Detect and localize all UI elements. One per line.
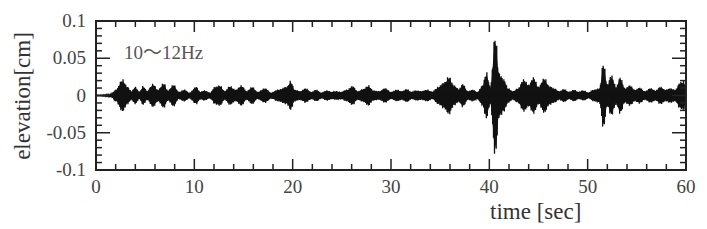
x-tick-label: 0 [91,176,101,197]
y-axis-title: elevation[cm] [10,32,35,160]
x-tick-labels: 0102030405060 [91,176,695,197]
x-tick-label: 40 [480,176,499,197]
waveform-chart: 0.10.050-0.05-0.1 0102030405060 10〜12Hz … [0,0,707,229]
y-tick-label: -0.05 [46,122,86,143]
x-axis-title: time [sec] [490,199,581,224]
x-tick-label: 60 [677,176,696,197]
x-tick-label: 30 [382,176,401,197]
y-tick-label: 0 [77,85,87,106]
x-tick-label: 50 [578,176,597,197]
y-tick-label: 0.1 [62,10,86,31]
y-tick-label: -0.1 [56,159,86,180]
y-tick-label: 0.05 [53,47,86,68]
x-tick-label: 10 [185,176,204,197]
y-tick-labels: 0.10.050-0.05-0.1 [46,10,86,180]
x-tick-label: 20 [283,176,302,197]
frequency-band-annotation: 10〜12Hz [124,42,203,63]
